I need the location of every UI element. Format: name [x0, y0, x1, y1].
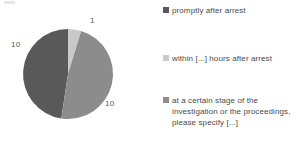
pie-chart-figure: 10 1 10 promptly after arrest within [..…: [0, 0, 296, 152]
legend-item-promptly-after-arrest[interactable]: promptly after arrest: [163, 5, 296, 16]
pie-plot-area: 10 1 10: [0, 0, 155, 152]
legend-swatch-icon: [163, 7, 169, 13]
pie-data-label-left: 10: [11, 40, 20, 49]
legend-item-within-hours-after-arrest[interactable]: within [...] hours after arrest: [163, 53, 296, 64]
legend-swatch-icon: [163, 97, 169, 103]
legend: promptly after arrest within [...] hours…: [163, 0, 296, 152]
legend-item-label: at a certain stage of the investigation …: [172, 95, 296, 128]
legend-swatch-icon: [163, 55, 169, 61]
pie-data-label-right: 10: [105, 99, 114, 108]
legend-item-certain-stage-of-investigation[interactable]: at a certain stage of the investigation …: [163, 95, 296, 128]
pie-slice-promptly-after-arrest[interactable]: [23, 29, 68, 118]
legend-item-label: promptly after arrest: [172, 5, 246, 16]
legend-item-label: within [...] hours after arrest: [172, 53, 272, 64]
pie-graphic: [0, 0, 155, 152]
pie-data-label-top: 1: [90, 16, 95, 25]
